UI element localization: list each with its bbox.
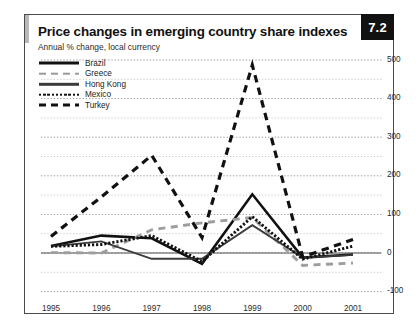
y-tick-label-400: 400	[387, 93, 417, 102]
x-tick-label-2001: 2001	[333, 304, 373, 313]
y-tick-label--100: -100	[387, 286, 417, 295]
x-tick-label-1996: 1996	[81, 304, 121, 313]
x-tick-label-2000: 2000	[283, 304, 323, 313]
y-tick-label-200: 200	[387, 170, 417, 179]
x-tick-label-1998: 1998	[182, 304, 222, 313]
x-tick-label-1999: 1999	[232, 304, 272, 313]
y-tick-label-300: 300	[387, 132, 417, 141]
chart-canvas	[25, 15, 395, 315]
plot-area: -1000100200300400500 1995199619971998199…	[25, 15, 395, 315]
figure-panel: 7.2 Price changes in emerging country sh…	[24, 14, 394, 314]
series-line-hong-kong	[51, 225, 353, 259]
x-tick-label-1995: 1995	[31, 304, 71, 313]
series-line-turkey	[51, 65, 353, 257]
y-tick-label-500: 500	[387, 55, 417, 64]
y-tick-label-0: 0	[387, 248, 417, 257]
x-tick-label-1997: 1997	[132, 304, 172, 313]
y-tick-label-100: 100	[387, 209, 417, 218]
